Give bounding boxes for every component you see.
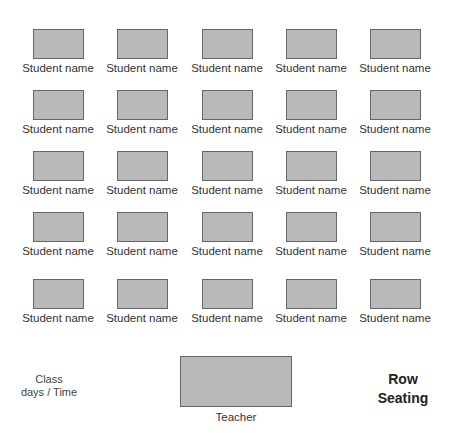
student-desk (202, 279, 253, 309)
student-desk (117, 212, 168, 242)
student-seat: Student name (266, 279, 356, 324)
student-desk (202, 151, 253, 181)
student-seat: Student name (350, 279, 440, 324)
student-seat: Student name (13, 90, 103, 135)
student-desk (33, 29, 84, 59)
student-desk (286, 29, 337, 59)
student-desk (33, 151, 84, 181)
student-desk (117, 151, 168, 181)
student-seat: Student name (97, 90, 187, 135)
student-seat: Student name (266, 29, 356, 74)
student-seat: Student name (97, 212, 187, 257)
student-seat: Student name (13, 279, 103, 324)
student-seat: Student name (350, 90, 440, 135)
student-name-label: Student name (97, 184, 187, 196)
class-days-time: Class days / Time (18, 373, 80, 399)
student-seat: Student name (97, 279, 187, 324)
student-name-label: Student name (350, 62, 440, 74)
student-name-label: Student name (266, 312, 356, 324)
student-seat: Student name (13, 212, 103, 257)
class-info-line1: Class (18, 373, 80, 386)
student-seat: Student name (182, 29, 272, 74)
class-info-line2: days / Time (18, 386, 80, 399)
chart-title: Row Seating (370, 370, 436, 408)
student-desk (370, 279, 421, 309)
student-name-label: Student name (13, 123, 103, 135)
student-desk (370, 90, 421, 120)
student-desk (286, 90, 337, 120)
student-name-label: Student name (350, 123, 440, 135)
student-desk (117, 90, 168, 120)
title-line1: Row (370, 370, 436, 389)
student-desk (370, 212, 421, 242)
student-seat: Student name (13, 151, 103, 196)
student-seat: Student name (97, 151, 187, 196)
teacher-desk-box (180, 356, 292, 407)
student-desk (33, 90, 84, 120)
student-name-label: Student name (182, 245, 272, 257)
student-seat: Student name (350, 151, 440, 196)
student-desk (286, 279, 337, 309)
student-desk (117, 29, 168, 59)
student-desk (202, 29, 253, 59)
student-desk (370, 151, 421, 181)
student-name-label: Student name (97, 62, 187, 74)
student-name-label: Student name (266, 245, 356, 257)
student-name-label: Student name (350, 245, 440, 257)
student-name-label: Student name (350, 312, 440, 324)
student-name-label: Student name (182, 184, 272, 196)
student-name-label: Student name (266, 184, 356, 196)
student-seat: Student name (182, 279, 272, 324)
student-seat: Student name (13, 29, 103, 74)
student-name-label: Student name (13, 245, 103, 257)
student-seat: Student name (266, 151, 356, 196)
student-desk (286, 151, 337, 181)
student-seat: Student name (182, 90, 272, 135)
student-name-label: Student name (13, 312, 103, 324)
student-seat: Student name (266, 212, 356, 257)
student-seat: Student name (182, 212, 272, 257)
teacher-desk: Teacher (180, 356, 292, 423)
student-desk (202, 90, 253, 120)
student-seat: Student name (350, 212, 440, 257)
student-name-label: Student name (97, 312, 187, 324)
student-name-label: Student name (97, 245, 187, 257)
student-name-label: Student name (13, 62, 103, 74)
student-name-label: Student name (97, 123, 187, 135)
student-seat: Student name (266, 90, 356, 135)
student-name-label: Student name (266, 123, 356, 135)
student-desk (33, 279, 84, 309)
teacher-label: Teacher (180, 411, 292, 423)
student-name-label: Student name (350, 184, 440, 196)
student-name-label: Student name (182, 123, 272, 135)
student-name-label: Student name (13, 184, 103, 196)
student-desk (202, 212, 253, 242)
student-desk (117, 279, 168, 309)
student-name-label: Student name (266, 62, 356, 74)
student-desk (370, 29, 421, 59)
student-seat: Student name (182, 151, 272, 196)
student-seat: Student name (350, 29, 440, 74)
student-desk (33, 212, 84, 242)
student-name-label: Student name (182, 62, 272, 74)
title-line2: Seating (370, 389, 436, 408)
student-seat: Student name (97, 29, 187, 74)
student-desk (286, 212, 337, 242)
student-name-label: Student name (182, 312, 272, 324)
